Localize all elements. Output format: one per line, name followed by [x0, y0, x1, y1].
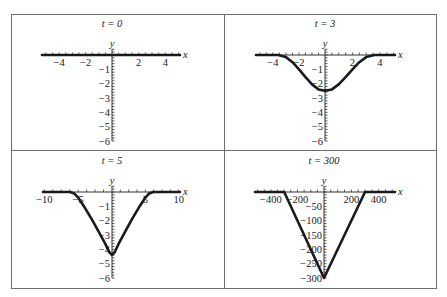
- y-axis-label: y: [322, 38, 328, 49]
- y-tick-label: −2: [99, 78, 110, 89]
- y-tick-label: −3: [312, 93, 323, 104]
- x-tick-label: −400: [260, 194, 282, 205]
- y-tick-label: −6: [99, 136, 110, 147]
- y-tick-label: −5: [99, 121, 110, 132]
- x-tick-label: −4: [267, 57, 279, 68]
- y-tick-label: −100: [300, 215, 322, 226]
- x-tick-label: −10: [36, 194, 52, 205]
- y-tick-label: −5: [99, 258, 110, 269]
- x-tick-label: −4: [54, 57, 66, 68]
- y-tick-label: −5: [312, 121, 323, 132]
- y-tick-label: −4: [99, 107, 111, 118]
- y-tick-label: −300: [300, 273, 322, 284]
- y-axis-label: y: [109, 175, 115, 186]
- panel-t3: t = 3 y x −4−224−1−2−3−4−5−6: [256, 18, 403, 147]
- plot-area: −4−224−1−2−3−4−5−6: [256, 49, 395, 147]
- x-tick-label: 400: [371, 194, 387, 205]
- panel-title: t = 300: [308, 155, 340, 166]
- y-tick-label: −4: [312, 107, 324, 118]
- y-tick-label: −1: [99, 201, 110, 212]
- y-tick-label: −50: [306, 201, 322, 212]
- y-axis-label: y: [321, 175, 327, 186]
- x-tick-label: −2: [80, 57, 91, 68]
- x-tick-label: 4: [163, 57, 169, 68]
- plot-area: −4−224−1−2−3−4−5−6: [42, 49, 180, 147]
- y-tick-label: −3: [99, 93, 110, 104]
- x-axis-label: x: [397, 49, 403, 60]
- x-tick-label: 10: [173, 194, 184, 205]
- x-axis-label: x: [397, 186, 403, 197]
- plot-area: −400−200200400−50−100−150−200−250−300: [255, 186, 395, 284]
- y-tick-label: −1: [312, 64, 323, 75]
- y-tick-label: −2: [99, 215, 110, 226]
- panel-title: t = 3: [315, 18, 336, 29]
- panel-t300: t = 300 y x −400−200200400−50−100−150−20…: [255, 155, 403, 284]
- plot-area: −10−5510−1−2−3−4−5−6: [36, 186, 184, 284]
- x-tick-label: 200: [343, 194, 359, 205]
- x-tick-label: 4: [377, 57, 383, 68]
- x-axis-label: x: [182, 49, 188, 60]
- plots-canvas: t = 0 y x −4−224−1−2−3−4−5−6 t = 3 y x −…: [0, 0, 447, 297]
- x-tick-label: 2: [136, 57, 141, 68]
- panel-title: t = 5: [102, 155, 123, 166]
- y-tick-label: −6: [312, 136, 323, 147]
- panel-t5: t = 5 y x −10−5510−1−2−3−4−5−6: [36, 155, 188, 284]
- panel-title: t = 0: [102, 18, 123, 29]
- y-axis-label: y: [109, 38, 115, 49]
- y-tick-label: −6: [99, 273, 110, 284]
- panel-t0: t = 0 y x −4−224−1−2−3−4−5−6: [42, 18, 188, 147]
- y-tick-label: −1: [99, 64, 110, 75]
